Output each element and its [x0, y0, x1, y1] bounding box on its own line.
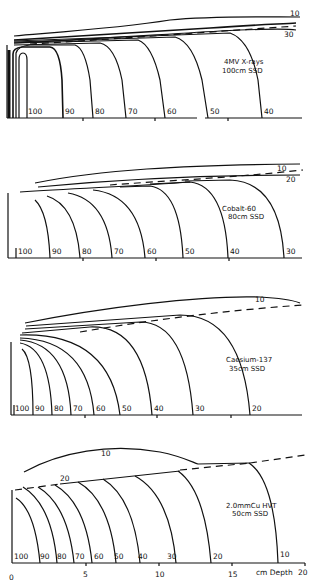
isodose-50 — [22, 327, 152, 415]
dash-20 — [15, 484, 60, 490]
isodose-10 — [35, 164, 300, 183]
label-90: 90 — [40, 552, 50, 561]
label-30: 30 — [167, 552, 177, 561]
isodose-50 — [14, 37, 208, 118]
panel-title-line2: 50cm SSD — [232, 510, 268, 518]
label-top-10: 10 — [277, 164, 287, 173]
isodose-100 — [19, 53, 27, 118]
label-30: 30 — [195, 404, 205, 413]
label-80: 80 — [82, 247, 92, 256]
label-top-20: 20 — [286, 175, 296, 184]
label-top-20: 20 — [60, 474, 70, 483]
label-90: 90 — [52, 247, 62, 256]
panel-title-line2: 35cm SSD — [229, 365, 265, 373]
panel-title-line1: Caesium-137 — [226, 356, 272, 364]
panel-4mv-xrays: 100 90 80 70 60 50 40 10 30 4MV X-rays 1… — [7, 9, 302, 121]
panel-caesium-137: 100 90 80 70 60 50 40 30 20 10 Caesium-1… — [11, 295, 303, 418]
label-top-30: 30 — [284, 30, 294, 39]
label-70: 70 — [73, 404, 83, 413]
label-50: 50 — [185, 247, 195, 256]
label-80: 80 — [95, 107, 105, 116]
label-70: 70 — [75, 552, 85, 561]
label-70: 70 — [128, 107, 138, 116]
label-top-10: 10 — [101, 449, 111, 458]
label-90: 90 — [65, 107, 75, 116]
x-tick-0: 0 — [9, 573, 14, 582]
label-60: 60 — [167, 107, 177, 116]
label-20: 20 — [252, 404, 262, 413]
penumbra-dash — [80, 305, 303, 332]
label-70: 70 — [114, 247, 124, 256]
label-100: 100 — [15, 404, 30, 413]
label-20: 20 — [213, 552, 223, 561]
label-40: 40 — [264, 107, 274, 116]
panel-title-line1: Cobalt-60 — [222, 205, 256, 213]
isodose-50 — [103, 479, 140, 563]
x-tick-15: 15 — [228, 570, 238, 579]
label-top-10: 10 — [290, 9, 300, 18]
x-tick-10: 10 — [155, 570, 165, 579]
dash-10 — [250, 455, 305, 463]
isodose-10-top — [24, 449, 250, 472]
panel-title-line2: 100cm SSD — [222, 67, 263, 75]
label-100: 100 — [28, 107, 43, 116]
label-top-10: 10 — [255, 295, 265, 304]
label-40: 40 — [138, 552, 148, 561]
panel-cobalt-60: 100 90 80 70 60 50 40 30 10 20 Cobalt-60… — [8, 164, 303, 261]
label-60: 60 — [94, 552, 104, 561]
penumbra-dash — [110, 170, 303, 185]
panel-title-line1: 4MV X-rays — [224, 58, 264, 66]
panel-title-line2: 80cm SSD — [228, 213, 264, 221]
x-axis-label: cm Depth — [256, 568, 293, 577]
isodose-20 — [38, 175, 300, 187]
isodose-40 — [25, 322, 193, 415]
panel-title-line1: 2.0mmCu HVT — [226, 502, 277, 510]
label-10: 10 — [280, 550, 290, 559]
label-50: 50 — [210, 107, 220, 116]
label-40: 40 — [230, 247, 240, 256]
label-50: 50 — [122, 404, 132, 413]
label-60: 60 — [147, 247, 157, 256]
panel-2mmcu-hvt: 100 90 80 70 60 50 40 30 20 10 10 20 2.0… — [9, 449, 308, 582]
isodose-40 — [14, 33, 262, 118]
label-100: 100 — [18, 247, 33, 256]
isodose-figure: 100 90 80 70 60 50 40 10 30 4MV X-rays 1… — [0, 0, 315, 586]
x-tick-20: 20 — [298, 568, 308, 577]
label-80: 80 — [54, 404, 64, 413]
label-80: 80 — [57, 552, 67, 561]
label-60: 60 — [96, 404, 106, 413]
isodose-10 — [14, 17, 300, 36]
label-90: 90 — [35, 404, 45, 413]
isodose-40 — [135, 476, 176, 563]
label-30: 30 — [286, 247, 296, 256]
label-40: 40 — [154, 404, 164, 413]
isodose-90 — [35, 200, 50, 258]
label-50: 50 — [114, 552, 124, 561]
label-100: 100 — [14, 552, 29, 561]
isodose-30 — [178, 471, 211, 563]
x-tick-5: 5 — [83, 570, 88, 579]
